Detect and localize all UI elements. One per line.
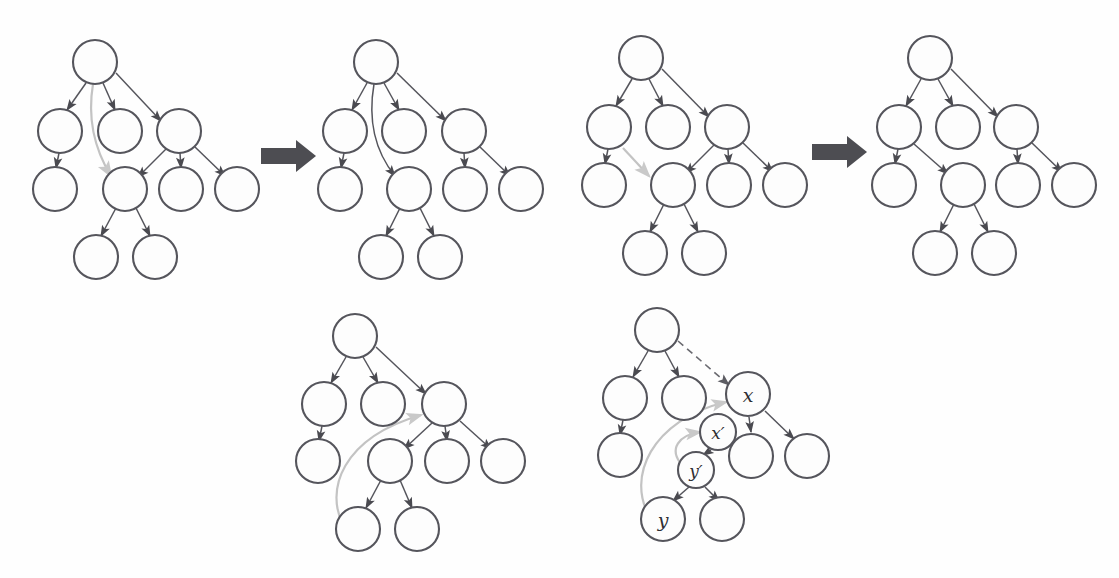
tree-node[interactable] [635,308,679,352]
tree-node[interactable] [425,439,469,483]
edge-c-f [464,153,465,168]
tree-node[interactable] [336,507,380,551]
tree-node[interactable] [73,40,117,84]
tree-node[interactable] [996,163,1040,207]
tree-node[interactable] [354,40,398,84]
tree-node[interactable] [994,105,1038,149]
tree-node[interactable] [587,105,631,149]
tree-node[interactable] [972,231,1016,275]
tree-node[interactable] [729,434,773,478]
tree-node[interactable] [603,376,647,420]
tree-node[interactable] [368,439,412,483]
tree-node[interactable] [74,235,118,279]
tree-node[interactable] [443,167,487,211]
tree-node[interactable] [296,439,340,483]
tree-node[interactable] [361,382,405,426]
tree-node[interactable] [302,382,346,426]
tree-node[interactable] [1052,163,1096,207]
tree-node[interactable] [422,382,466,426]
node-label-y-prime: y′ [688,461,703,481]
tree-node[interactable] [763,163,807,207]
tree-node[interactable] [318,167,362,211]
tree-node[interactable] [877,105,921,149]
node-label-x-prime: x′ [711,423,725,443]
tree-node[interactable] [646,105,690,149]
tree-node[interactable] [598,433,642,477]
tree-node[interactable] [651,163,695,207]
tree-node[interactable] [936,105,980,149]
tree-node[interactable] [323,109,367,153]
tree-node[interactable] [662,376,706,420]
tree-node[interactable] [38,109,82,153]
tree-node[interactable] [133,235,177,279]
tree-node[interactable] [872,163,916,207]
tree-node[interactable] [941,163,985,207]
tree-node[interactable] [395,507,439,551]
tree-node[interactable] [157,109,201,153]
tree-node[interactable] [333,314,377,358]
tree-node[interactable] [582,163,626,207]
tree-node[interactable] [215,167,259,211]
tree-node[interactable] [103,167,147,211]
figure-background [0,0,1119,578]
tree-node[interactable] [499,167,543,211]
edge-c-f [1017,149,1018,164]
tree-node[interactable] [682,231,726,275]
tree-node[interactable] [705,105,749,149]
tree-transformation-figure: x x′ y′ y [0,0,1119,578]
tree-node[interactable] [359,235,403,279]
tree-node[interactable] [623,231,667,275]
tree-node[interactable] [442,109,486,153]
node-label-y: y [657,509,669,531]
tree-node[interactable] [785,434,829,478]
tree-node[interactable] [481,439,525,483]
tree-node[interactable] [707,163,751,207]
tree-node[interactable] [33,167,77,211]
tree-node[interactable] [382,109,426,153]
tree-node[interactable] [387,167,431,211]
tree-node[interactable] [700,497,744,541]
tree-node[interactable] [98,109,142,153]
tree-node[interactable] [908,36,952,80]
tree-node[interactable] [619,36,663,80]
tree-node[interactable] [418,235,462,279]
edge-c-f [728,149,729,164]
tree-node[interactable] [913,231,957,275]
edge-c-f [180,153,181,168]
tree-node[interactable] [159,167,203,211]
node-label-x: x [743,384,754,406]
